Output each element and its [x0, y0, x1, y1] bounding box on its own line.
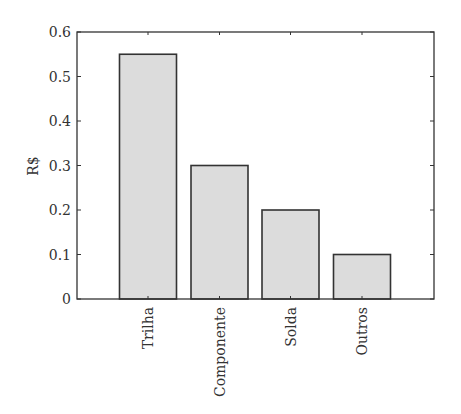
- y-tick-label: 0.5: [49, 69, 71, 85]
- x-tick-labels: TrilhaComponenteSoldaOutros: [140, 307, 370, 397]
- x-tick-label-outros: Outros: [354, 307, 370, 355]
- y-axis-label: R$: [25, 156, 41, 175]
- x-tick-label-componente: Componente: [212, 307, 228, 397]
- x-tick-label-trilha: Trilha: [140, 307, 156, 349]
- y-tick-label: 0: [62, 291, 71, 307]
- bar-componente: [191, 166, 248, 300]
- bar-outros: [334, 255, 391, 300]
- y-tick-label: 0.4: [49, 113, 71, 129]
- bar-trilha: [120, 54, 177, 299]
- x-tick-label-solda: Solda: [283, 307, 299, 347]
- y-tick-label: 0.3: [49, 158, 71, 174]
- bars-group: [120, 54, 391, 299]
- y-tick-label: 0.6: [49, 24, 71, 40]
- bar-chart: 00.10.20.30.40.50.6 TrilhaComponenteSold…: [0, 0, 461, 414]
- bar-solda: [262, 210, 319, 299]
- y-tick-label: 0.2: [49, 202, 71, 218]
- y-tick-label: 0.1: [49, 247, 71, 263]
